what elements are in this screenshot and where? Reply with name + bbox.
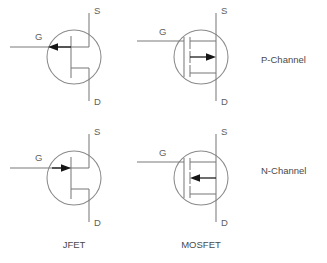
gate-arrow-head-right bbox=[61, 164, 71, 172]
gate-label: G bbox=[159, 147, 167, 158]
symbol-p-channel-mosfet: S D G bbox=[137, 5, 228, 107]
drain-label: D bbox=[221, 217, 228, 228]
device-envelope-circle bbox=[47, 30, 101, 84]
symbol-n-channel-mosfet: S D G bbox=[137, 126, 228, 228]
drain-label: D bbox=[94, 96, 101, 107]
gate-label: G bbox=[159, 26, 167, 37]
row-label-p-channel: P-Channel bbox=[261, 54, 306, 65]
column-label-mosfet: MOSFET bbox=[181, 239, 221, 250]
source-label: S bbox=[94, 126, 101, 137]
symbol-n-channel-jfet: S D G bbox=[10, 126, 101, 228]
source-label: S bbox=[221, 126, 228, 137]
gate-label: G bbox=[35, 152, 43, 163]
fet-symbols-diagram: S D G S D G P-Channel bbox=[0, 0, 327, 263]
substrate-arrow-head-right bbox=[206, 53, 216, 61]
row-label-n-channel: N-Channel bbox=[261, 165, 306, 176]
device-envelope-circle bbox=[47, 151, 101, 205]
drain-label: D bbox=[221, 96, 228, 107]
gate-label: G bbox=[35, 31, 43, 42]
column-label-jfet: JFET bbox=[63, 239, 86, 250]
symbol-p-channel-jfet: S D G bbox=[10, 5, 101, 107]
source-label: S bbox=[221, 5, 228, 16]
drain-label: D bbox=[94, 217, 101, 228]
gate-arrow-head-left bbox=[48, 43, 58, 51]
source-label: S bbox=[94, 5, 101, 16]
substrate-arrow-head-left bbox=[190, 174, 200, 182]
